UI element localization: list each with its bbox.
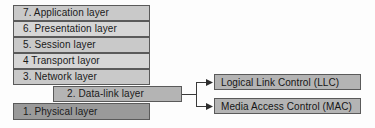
layer-box-data-link: 2. Data-link layer — [53, 86, 182, 102]
sublayer-label-llc: Logical Link Control (LLC) — [221, 77, 339, 88]
layer-box-presentation: 6. Presentation layer — [13, 21, 150, 37]
layer-label-data-link: 2. Data-link layer — [67, 89, 144, 99]
layer-label-application: 7. Application layer — [23, 8, 109, 18]
layer-box-network: 3. Network layer — [13, 69, 150, 85]
layer-label-presentation: 6. Presentation layer — [23, 24, 117, 34]
layer-label-session: 5. Session layer — [23, 40, 96, 50]
layer-box-session: 5. Session layer — [13, 37, 150, 53]
sublayer-label-mac: Media Access Control (MAC) — [221, 101, 352, 112]
sublayer-box-mac: Media Access Control (MAC) — [214, 98, 361, 114]
layer-label-transport: 4 Transport layor — [23, 56, 100, 66]
layer-label-physical: 1. Physical layer — [23, 107, 98, 117]
arrowhead-mac-icon — [206, 103, 213, 110]
layer-label-network: 3. Network layer — [23, 72, 97, 82]
arrowhead-llc-icon — [206, 79, 213, 86]
layer-box-application: 7. Application layer — [13, 5, 150, 21]
layer-box-physical: 1. Physical layer — [13, 103, 150, 120]
layer-box-transport: 4 Transport layor — [13, 53, 150, 69]
sublayer-box-llc: Logical Link Control (LLC) — [214, 74, 361, 90]
osi-model-diagram: 7. Application layer 6. Presentation lay… — [0, 0, 375, 128]
